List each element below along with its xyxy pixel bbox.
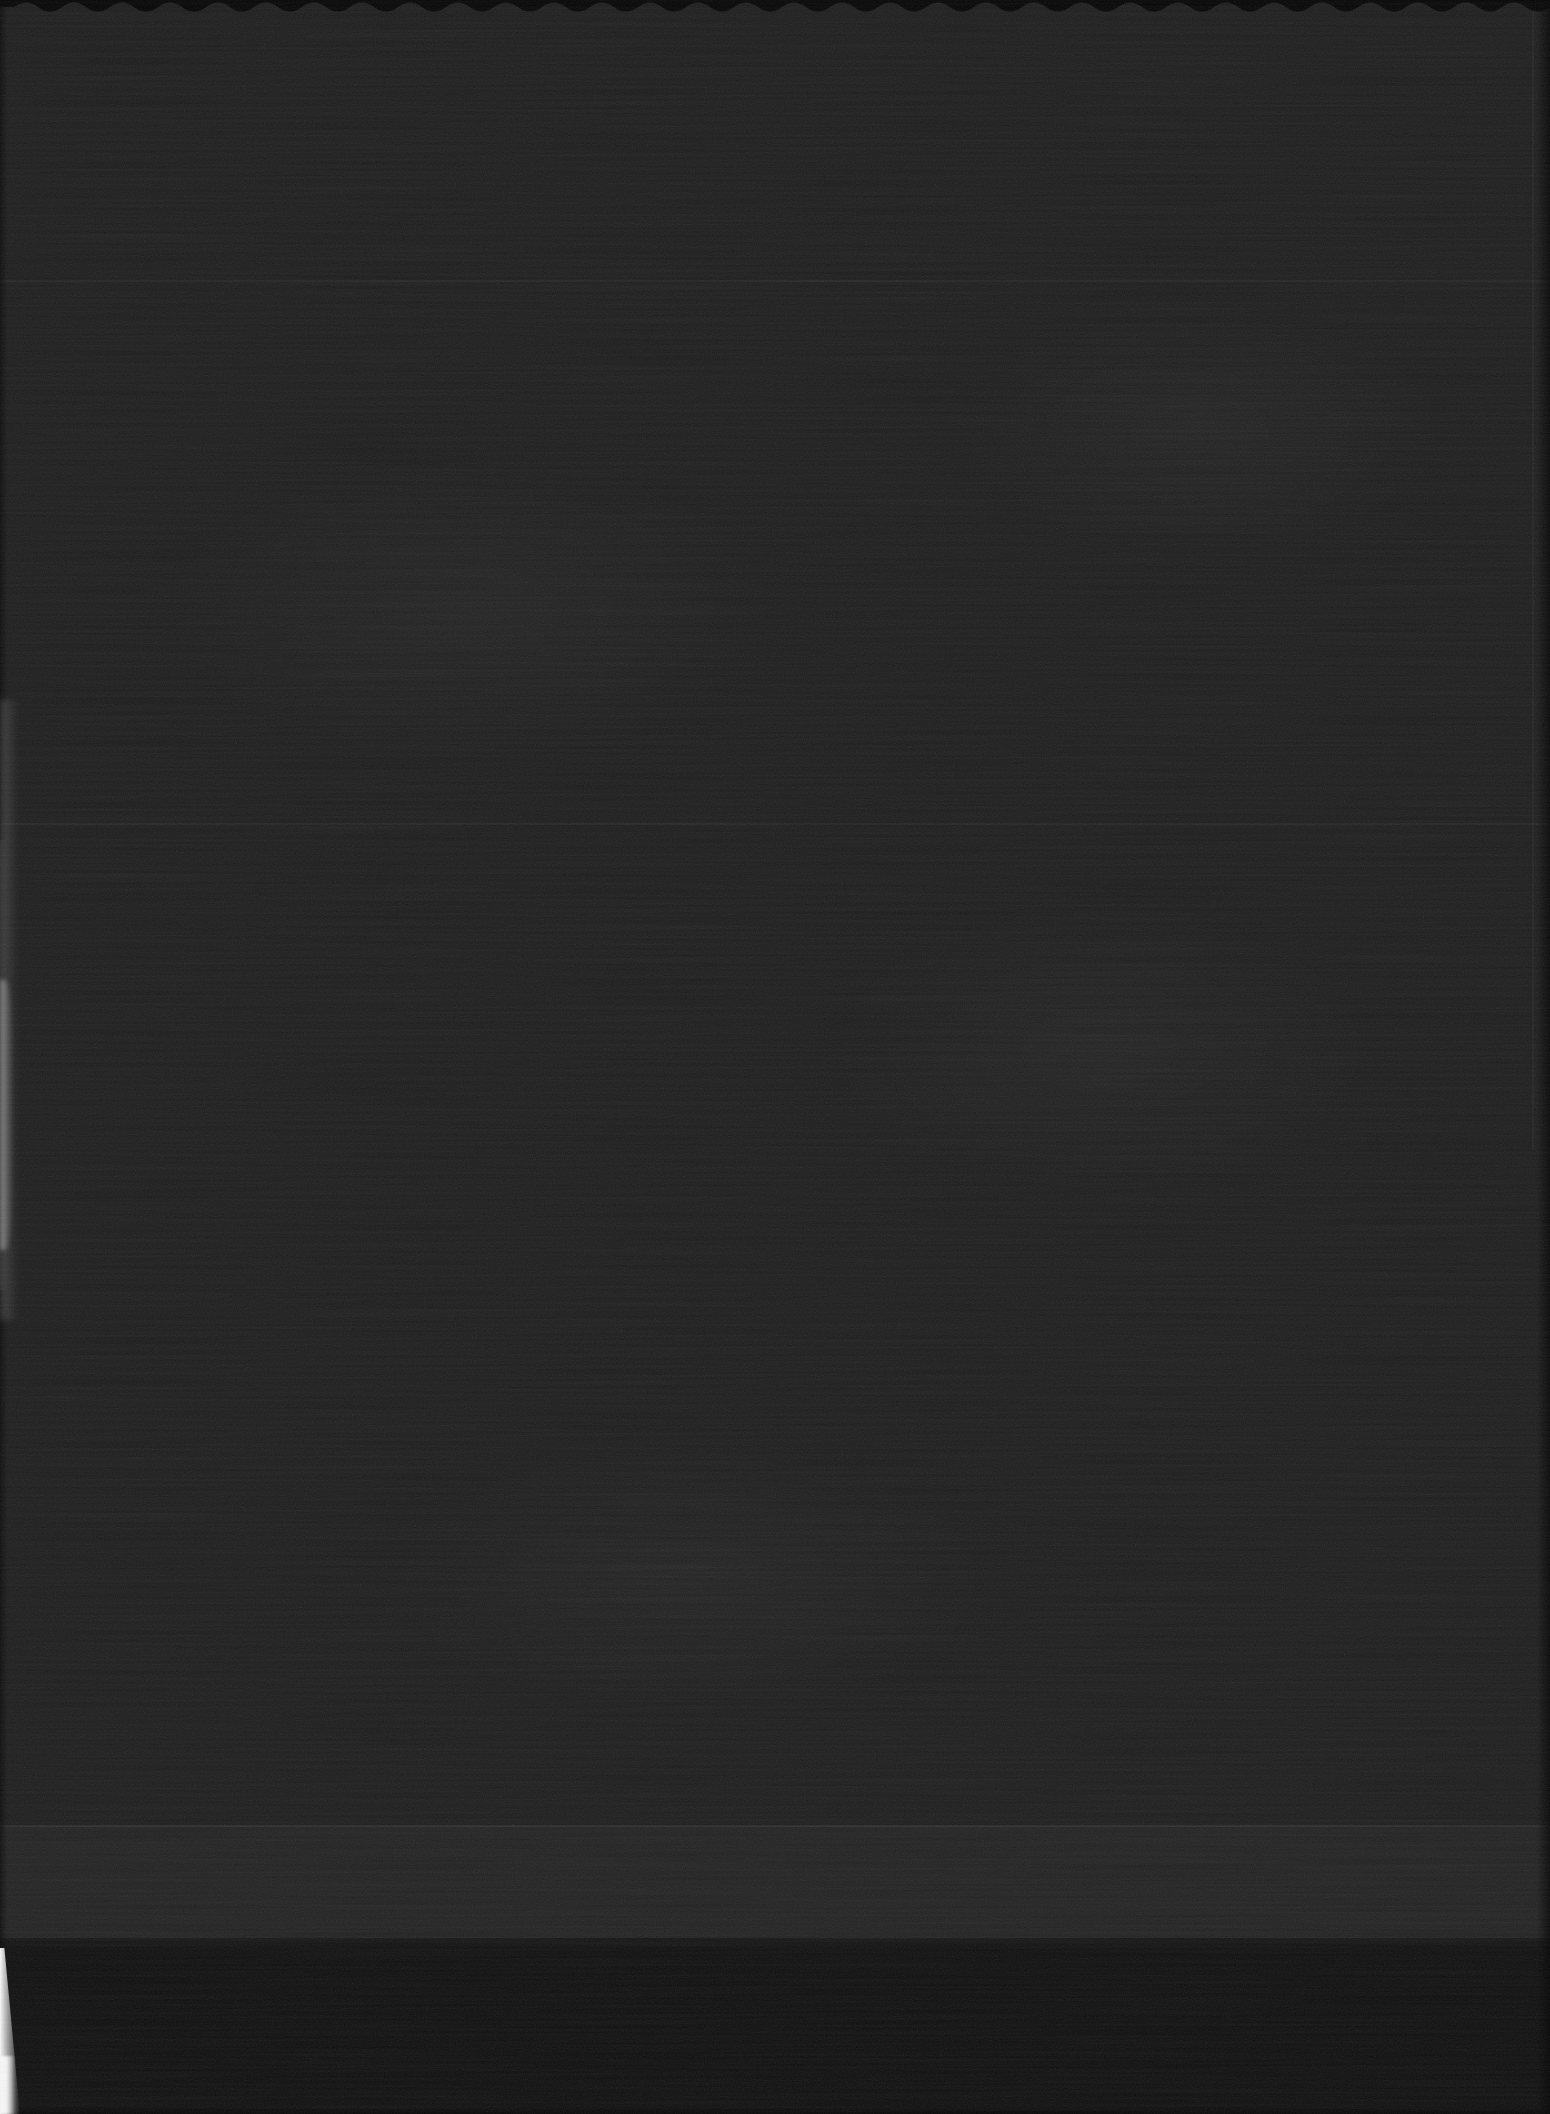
fine-grain-noise (0, 0, 1550, 2114)
scanned-black-page (0, 0, 1550, 2114)
film-grain-overlay (0, 0, 1550, 2114)
